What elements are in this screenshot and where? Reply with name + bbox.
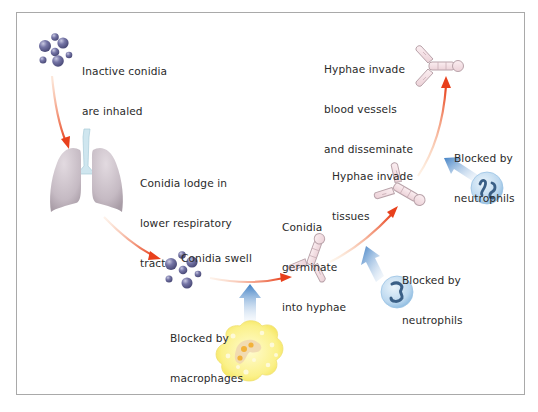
defense-label-neutrophils-2: Blocked by neutrophils — [454, 125, 515, 219]
stage-label-swell: Conidia swell — [181, 225, 252, 279]
defense-label-macrophages: Blocked by macrophages — [170, 305, 243, 399]
blocking-arrow-neutrophils-1 — [361, 246, 384, 282]
conidia-cluster-icon — [39, 33, 72, 67]
defense-label-neutrophils-1: Blocked by neutrophils — [402, 247, 463, 341]
hypha-icon-blood-vessels — [416, 46, 464, 87]
stage-label-inhaled: Inactive conidia are inhaled — [82, 38, 167, 132]
progression-arrow-inhaled — [52, 76, 70, 149]
stage-label-invade-vessels: Hyphae invade blood vessels and dissemin… — [324, 36, 413, 170]
lungs-icon — [50, 129, 123, 212]
